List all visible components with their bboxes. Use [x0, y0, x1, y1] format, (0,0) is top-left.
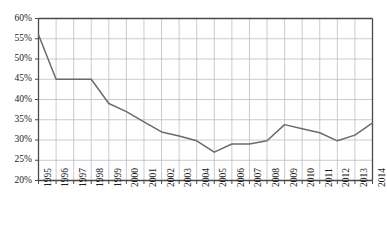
data-series	[39, 35, 373, 152]
y-axis-tick-label: 50%	[2, 53, 32, 63]
y-axis-tick-label: 25%	[2, 154, 32, 164]
y-axis-tick-label: 20%	[2, 175, 32, 185]
x-axis-tick-label: 2005	[218, 168, 228, 187]
x-axis-tick-label: 2010	[306, 168, 316, 187]
x-axis-tick-label: 2007	[253, 168, 263, 187]
y-axis-tick-label: 40%	[2, 94, 32, 104]
x-axis-tick-label: 2013	[359, 168, 369, 187]
data-line	[39, 35, 373, 152]
x-axis-tick-label: 2012	[341, 168, 351, 187]
x-axis-tick-label: 2002	[166, 168, 176, 187]
x-axis-tick-label: 2001	[148, 168, 158, 187]
y-axis-tick-label: 60%	[2, 13, 32, 23]
x-axis-tick-label: 2003	[183, 168, 193, 187]
x-axis-tick-label: 2009	[289, 168, 299, 187]
y-axis-tick-label: 45%	[2, 73, 32, 83]
x-axis-tick-label: 1997	[78, 168, 88, 187]
x-axis-tick-label: 1995	[43, 168, 53, 187]
y-axis-tick-label: 30%	[2, 134, 32, 144]
x-axis-tick-label: 1998	[95, 168, 105, 187]
x-axis-tick-label: 1999	[113, 168, 123, 187]
x-axis-tick-label: 2014	[377, 168, 387, 187]
axis-lines	[35, 19, 373, 185]
x-axis-tick-label: 1996	[60, 168, 70, 187]
grid-lines	[39, 19, 373, 181]
x-axis-tick-label: 2000	[130, 168, 140, 187]
x-axis-tick-label: 2006	[236, 168, 246, 187]
x-axis-tick-label: 2011	[324, 168, 334, 187]
y-axis-tick-label: 55%	[2, 33, 32, 43]
y-axis-tick-label: 35%	[2, 114, 32, 124]
x-axis-tick-label: 2008	[271, 168, 281, 187]
x-axis-tick-label: 2004	[201, 168, 211, 187]
